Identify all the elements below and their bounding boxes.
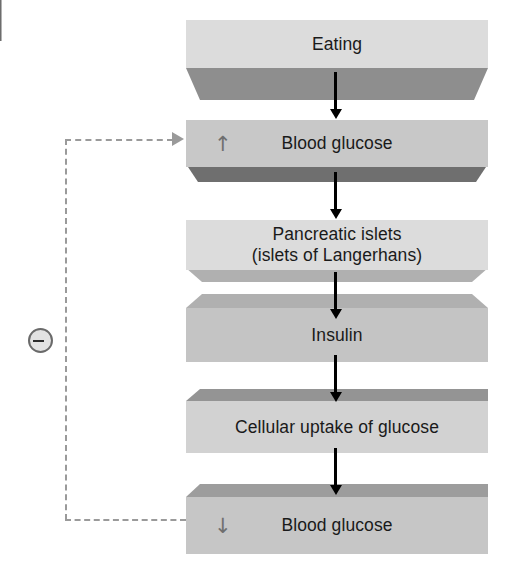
node-pancreatic-islets-bevel [186,268,488,282]
node-cellular-uptake-face: Cellular uptake of glucose [186,401,488,453]
edge-blood-glucose-high-to-pancreatic-islets [334,172,337,210]
feedback-segment-bottom [65,519,186,521]
feedback-arrowhead-icon [172,132,184,146]
node-blood-glucose-high-label: Blood glucose [275,133,398,154]
flowchart-canvas: Eating ↑ Blood glucose Pancreatic islets… [0,0,513,584]
feedback-segment-top [65,139,173,141]
node-cellular-uptake-label: Cellular uptake of glucose [229,417,445,438]
circled-minus-icon [28,328,53,353]
node-pancreatic-islets: Pancreatic islets (islets of Langerhans) [186,220,488,282]
edge-eating-to-blood-glucose-high [334,72,337,110]
node-blood-glucose-high-face: ↑ Blood glucose [186,120,488,167]
node-insulin-bevel [186,294,488,308]
node-blood-glucose-high: ↑ Blood glucose [186,120,488,182]
up-arrow-icon: ↑ [214,133,232,154]
edge-insulin-to-cellular-uptake [334,355,337,393]
node-blood-glucose-low-label: Blood glucose [275,515,398,536]
node-pancreatic-islets-label: Pancreatic islets [266,224,407,245]
feedback-segment-vertical [65,139,67,520]
node-pancreatic-islets-sublabel: (islets of Langerhans) [246,245,428,266]
node-blood-glucose-low-face: ↓ Blood glucose [186,497,488,554]
edge-pancreatic-islets-to-insulin [334,272,337,310]
node-pancreatic-islets-face: Pancreatic islets (islets of Langerhans) [186,220,488,270]
down-arrow-icon: ↓ [214,515,232,536]
page-edge-artifact [0,0,2,41]
edge-cellular-uptake-to-blood-glucose-low [334,448,337,486]
node-eating-label: Eating [306,34,368,55]
node-eating: Eating [186,20,488,80]
node-eating-bevel [186,68,488,100]
node-eating-face: Eating [186,20,488,68]
node-insulin: Insulin [186,294,488,362]
node-insulin-label: Insulin [305,325,368,346]
